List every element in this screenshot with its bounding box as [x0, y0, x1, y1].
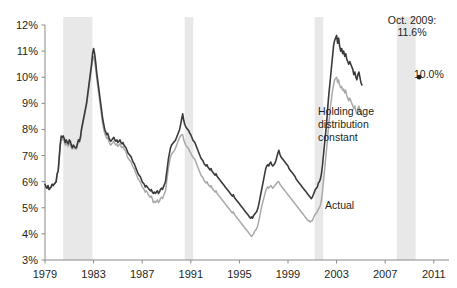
x-tick-label: 1983	[81, 268, 105, 280]
annotation-constant-series-label: Holding age distribution constant	[318, 105, 374, 143]
peak-callout-line1: Oct. 2009:	[388, 14, 436, 26]
y-tick-label: 6%	[22, 176, 38, 188]
constant-label-line3: constant	[318, 131, 358, 143]
y-tick-label: 5%	[22, 202, 38, 214]
actual-peak-label: 10.0%	[414, 68, 444, 80]
y-tick-label: 12%	[16, 19, 38, 31]
series-line-actual	[45, 56, 362, 236]
chart-svg: 3%4%5%6%7%8%9%10%11%12% 1979198319871991…	[0, 0, 457, 288]
unemployment-rate-chart: 3%4%5%6%7%8%9%10%11%12% 1979198319871991…	[0, 0, 457, 288]
recession-bands-group	[63, 17, 415, 260]
x-tick-label: 1999	[276, 268, 300, 280]
y-tick-label: 7%	[22, 150, 38, 162]
y-tick-label: 9%	[22, 97, 38, 109]
x-tick-label: 2007	[373, 268, 397, 280]
peak-callout-line2: 11.6%	[398, 26, 427, 38]
actual-series-label: Actual	[325, 199, 354, 211]
x-tick-label: 2003	[324, 268, 348, 280]
y-axis-ticks	[42, 25, 46, 260]
y-tick-label: 4%	[22, 228, 38, 240]
annotation-peak-callout: Oct. 2009: 11.6%	[388, 14, 436, 38]
x-axis-ticks	[45, 260, 434, 264]
x-tick-label: 1987	[130, 268, 154, 280]
x-axis-tick-labels: 197919831987199119951999200320072011	[33, 268, 446, 280]
x-tick-label: 1991	[179, 268, 203, 280]
recession-band	[63, 17, 92, 260]
x-tick-label: 2011	[422, 268, 446, 280]
recession-band	[397, 17, 416, 260]
y-tick-label: 11%	[17, 45, 38, 57]
y-tick-label: 3%	[22, 254, 38, 266]
constant-label-line2: distribution	[318, 118, 369, 130]
y-axis-tick-labels: 3%4%5%6%7%8%9%10%11%12%	[16, 19, 38, 266]
y-tick-label: 8%	[22, 123, 38, 135]
x-tick-label: 1979	[33, 268, 57, 280]
constant-label-line1: Holding age	[318, 105, 374, 117]
x-tick-label: 1995	[227, 268, 251, 280]
axes-group	[45, 25, 449, 260]
y-tick-label: 10%	[16, 71, 38, 83]
